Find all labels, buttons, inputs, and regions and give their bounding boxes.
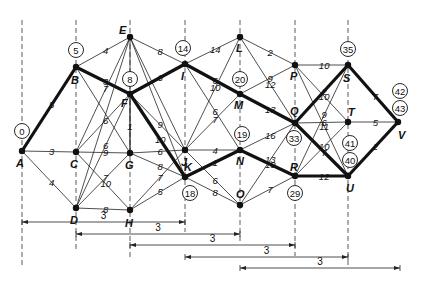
node-H xyxy=(127,207,133,213)
edge-weight: 10 xyxy=(155,134,166,145)
edge-weight: 1 xyxy=(213,157,218,168)
node-label: A xyxy=(15,157,24,169)
node-E xyxy=(127,34,133,40)
span-label: 3 xyxy=(155,222,161,233)
node-S xyxy=(345,62,351,68)
event-time: 18 xyxy=(185,188,196,199)
edge-weight: 7 xyxy=(213,114,219,125)
edge-weight: 4 xyxy=(213,145,218,156)
edge-weight: 7 xyxy=(158,172,164,183)
duration-spans: 33333 xyxy=(22,210,400,271)
node-label: E xyxy=(119,24,127,36)
edge-weight: 2 xyxy=(267,47,274,58)
node-label: R xyxy=(290,161,298,173)
node-C xyxy=(73,149,79,155)
node-A xyxy=(19,148,25,154)
arrow-right-icon xyxy=(394,266,400,270)
arrow-right-icon xyxy=(289,243,295,247)
edge-weight: 2 xyxy=(372,141,379,152)
node-T xyxy=(345,119,351,125)
node-I xyxy=(182,61,188,67)
node-label: G xyxy=(125,159,134,171)
node-L xyxy=(237,34,243,40)
edge-weight: 8 xyxy=(213,187,219,198)
node-label: O xyxy=(236,188,245,200)
event-time: 40 xyxy=(345,155,356,166)
edge-weight: 1 xyxy=(127,121,132,132)
edge-weight: 7 xyxy=(103,83,109,94)
edge-weight: 16 xyxy=(265,130,276,141)
edge-weight: 9 xyxy=(158,119,164,130)
edge-weight: 7 xyxy=(373,91,379,102)
event-time: 35 xyxy=(343,44,354,55)
edge-weight: 9 xyxy=(322,109,328,120)
edge-weight: 4 xyxy=(103,45,108,56)
edge-weights: 5344376910678869101687514661074618212913… xyxy=(49,44,379,215)
event-time: 5 xyxy=(73,45,78,56)
edge-weight: 10 xyxy=(319,141,330,152)
event-time: 8 xyxy=(127,74,132,85)
network-diagram: 5344376910678869101687514661074618212913… xyxy=(0,0,424,287)
edge-weight: 2 xyxy=(321,86,328,97)
node-label: S xyxy=(343,72,351,84)
edge-weight: 3 xyxy=(49,146,55,157)
event-time: 43 xyxy=(395,103,406,114)
node-label: K xyxy=(184,161,193,173)
event-time: 0 xyxy=(19,126,24,137)
event-time: 20 xyxy=(235,74,246,85)
edge-weight: 12 xyxy=(319,171,330,182)
span-label: 3 xyxy=(317,256,323,267)
edge-weight: 13 xyxy=(265,104,276,115)
arrow-right-icon xyxy=(179,220,185,224)
node-label: F xyxy=(121,97,128,109)
edge-weight: 7 xyxy=(103,172,109,183)
edge-weight: 8 xyxy=(158,161,164,172)
event-time: 41 xyxy=(345,138,356,149)
edge-weight: 10 xyxy=(210,82,221,93)
node-J xyxy=(182,147,188,153)
node-N xyxy=(237,147,243,153)
event-time: 33 xyxy=(289,133,300,144)
node-label: Q xyxy=(290,105,299,117)
arrow-right-icon xyxy=(342,255,348,259)
node-label: P xyxy=(290,70,298,82)
node-label: N xyxy=(236,155,245,167)
event-time: 19 xyxy=(237,129,248,140)
edge-weight: 6 xyxy=(158,146,164,157)
node-label: U xyxy=(346,182,355,194)
node-P xyxy=(292,62,298,68)
node-R xyxy=(292,173,298,179)
node-V xyxy=(395,119,401,125)
arrow-left-icon xyxy=(240,266,246,270)
span-label: 3 xyxy=(101,210,107,221)
node-U xyxy=(345,173,351,179)
node-G xyxy=(127,150,133,156)
edge-weight: 6 xyxy=(103,140,109,151)
edge-weight: 9 xyxy=(268,73,274,84)
edge-weight: 14 xyxy=(210,44,221,55)
edge-weight: 6 xyxy=(103,115,109,126)
edge-weight: 4 xyxy=(49,177,54,188)
node-label: C xyxy=(70,158,79,170)
node-label: D xyxy=(70,214,78,226)
arrow-left-icon xyxy=(22,220,28,224)
span-label: 3 xyxy=(210,233,216,244)
node-label: B xyxy=(71,74,79,86)
event-time: 29 xyxy=(290,188,301,199)
edge-weight: 6 xyxy=(213,175,219,186)
event-time: 14 xyxy=(178,43,189,54)
edge-weight: 5 xyxy=(49,99,55,110)
node-label: V xyxy=(398,129,407,141)
edge-weight: 6 xyxy=(158,72,164,83)
node-O xyxy=(237,202,243,208)
arrow-left-icon xyxy=(185,255,191,259)
node-K xyxy=(182,174,188,180)
node-B xyxy=(73,64,79,70)
node-label: M xyxy=(234,99,244,111)
node-D xyxy=(73,205,79,211)
node-label: T xyxy=(348,106,356,118)
arrow-right-icon xyxy=(234,232,240,236)
node-Q xyxy=(292,120,298,126)
edge-weight: 7 xyxy=(268,184,274,195)
event-time: 42 xyxy=(395,86,406,97)
